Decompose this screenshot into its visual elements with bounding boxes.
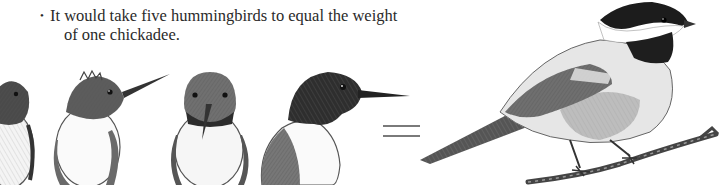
chickadee-icon xyxy=(420,2,718,182)
equals-sign-icon xyxy=(383,123,420,137)
hummingbird-2-icon xyxy=(54,71,170,185)
hummingbird-3-icon xyxy=(171,72,249,185)
birds-illustration xyxy=(0,0,727,185)
equals-bar-top xyxy=(383,125,420,127)
equals-bar-bottom xyxy=(383,135,420,137)
hummingbird-1-icon xyxy=(0,81,34,185)
